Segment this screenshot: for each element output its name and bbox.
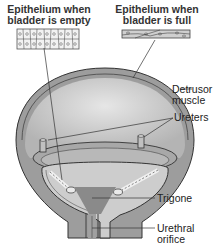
ureter-left [40,140,46,152]
inset-title-empty: Epithelium when bladder is empty [6,4,92,26]
epithelium-full-inset [122,30,190,38]
label-urethral-orifice: Urethral orifice [157,223,194,245]
label-ureters: Ureters [174,112,208,123]
label-detrusor-muscle: Detrusor muscle [172,84,212,106]
ureter-right [138,136,144,148]
inset-title-full: Epithelium when bladder is full [112,4,202,26]
bladder-diagram [0,0,217,248]
label-trigone: Trigone [157,193,192,204]
epithelium-empty-inset [17,29,79,49]
